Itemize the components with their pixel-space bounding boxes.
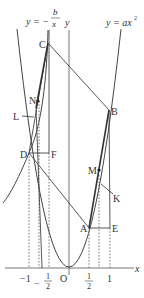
parabola-label-text: y = ax	[105, 17, 132, 28]
x-axis-label: x	[134, 263, 140, 274]
tick-label-half: 1 2	[85, 272, 93, 291]
tick-half-numerator: 1	[87, 272, 91, 281]
tick-neg-half-denominator: 2	[46, 282, 50, 291]
tick-neg-half-sign: −	[34, 278, 39, 288]
point-label-N: N	[29, 95, 36, 106]
parabola-label: y = ax 2	[105, 15, 137, 28]
point-N-dot	[36, 99, 39, 102]
point-label-B: B	[111, 106, 118, 117]
point-label-D: D	[20, 149, 27, 160]
segment-C-N	[36, 43, 48, 108]
point-label-L: L	[13, 111, 19, 122]
coordinate-diagram: y = − b x y y = ax 2 C B N L D F M K A E	[0, 0, 144, 298]
point-label-E: E	[112, 223, 118, 234]
point-label-C: C	[39, 39, 46, 50]
tick-label-neg-half: − 1 2	[34, 272, 52, 291]
leader-K	[101, 184, 113, 194]
point-M-dot	[97, 168, 100, 171]
tick-label-neg-one: −1	[20, 273, 31, 284]
hyperbola-label-denominator: x	[51, 19, 56, 29]
origin-label: O	[60, 273, 67, 284]
tick-half-denominator: 2	[87, 282, 91, 291]
point-label-M: M	[88, 165, 97, 176]
parabola-label-exponent: 2	[134, 15, 137, 21]
y-axis-label: y	[64, 17, 70, 28]
hyperbola-label-prefix: y = −	[25, 16, 49, 27]
hyperbola-label: y = − b x	[25, 7, 60, 29]
segment-C-B	[48, 43, 109, 110]
hyperbola-label-numerator: b	[53, 7, 58, 17]
point-label-F: F	[51, 149, 57, 160]
point-label-A: A	[80, 223, 88, 234]
point-label-K: K	[113, 193, 121, 204]
tick-label-one: 1	[107, 273, 112, 284]
segment-N-down	[36, 108, 42, 268]
leader-L	[22, 116, 34, 117]
tick-neg-half-numerator: 1	[46, 272, 50, 281]
segment-B-E	[109, 110, 110, 228]
